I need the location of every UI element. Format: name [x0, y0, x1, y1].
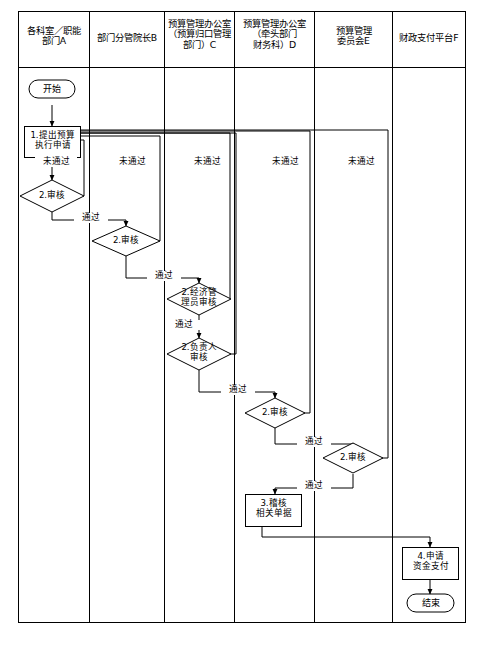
- node-d4-label: 2.负责人 审核: [173, 343, 225, 362]
- lane-header-f: 财政支付平台F: [393, 33, 465, 43]
- lane-header-d: 预算管理办公室 （牵头部门 财务科）D: [235, 19, 314, 50]
- node-d6-label: 2.审核: [328, 453, 378, 463]
- budget-execution-flowchart: 各科室／职能 部门A 部门分管院长B 预算管理办公室 （预算归口管理 部门）C …: [0, 0, 481, 652]
- edge-label-pass-5: 通过: [297, 437, 331, 447]
- table-outer-border: [19, 12, 466, 623]
- edge-label-fail-5: 未通过: [340, 157, 382, 167]
- edge-label-fail-2: 未通过: [111, 157, 153, 167]
- edge-label-pass-2: 通过: [147, 271, 181, 281]
- lane-header-b: 部门分管院长B: [90, 33, 164, 43]
- edge-label-pass-4: 通过: [221, 385, 255, 395]
- node-d3-label: 2.经济管 理员审核: [173, 288, 225, 307]
- edge-fail-d5: [52, 131, 310, 413]
- edge-label-fail-1: 未通过: [35, 157, 77, 167]
- edge-label-pass-6: 通过: [297, 481, 331, 491]
- node-d2-label: 2.审核: [101, 236, 151, 246]
- edge-label-pass-3: 通过: [167, 320, 201, 330]
- node-n3-label: 3.稽核 相关单据: [245, 499, 302, 518]
- edge-n3-to-n4: [262, 527, 430, 547]
- node-end-label: 结束: [407, 598, 454, 608]
- lane-header-e: 预算管理 委员会E: [315, 26, 392, 47]
- node-d5-label: 2.审核: [250, 408, 300, 418]
- lane-header-c: 预算管理办公室 （预算归口管理 部门）C: [165, 19, 234, 50]
- edge-label-fail-4: 未通过: [264, 157, 306, 167]
- lane-header-a: 各科室／职能 部门A: [19, 26, 89, 47]
- node-n1-label: 1.提出预算 执行申请: [24, 131, 81, 150]
- edge-label-fail-3: 未通过: [186, 157, 228, 167]
- node-d1-label: 2.审核: [27, 191, 77, 201]
- node-start-label: 开始: [29, 84, 75, 94]
- node-n4-label: 4.申请 资金支付: [402, 552, 459, 571]
- edge-label-pass-1: 通过: [74, 213, 108, 223]
